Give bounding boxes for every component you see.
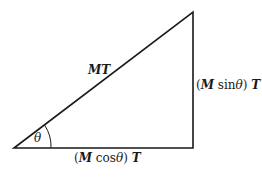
hypotenuse-label: MT xyxy=(88,63,110,77)
vertical-side-label: (M sinθ) T xyxy=(196,78,260,92)
triangle-outline xyxy=(14,12,193,148)
horizontal-side-label: (M cosθ) T xyxy=(74,151,141,165)
angle-label: θ xyxy=(34,131,41,145)
angle-arc xyxy=(45,125,52,148)
